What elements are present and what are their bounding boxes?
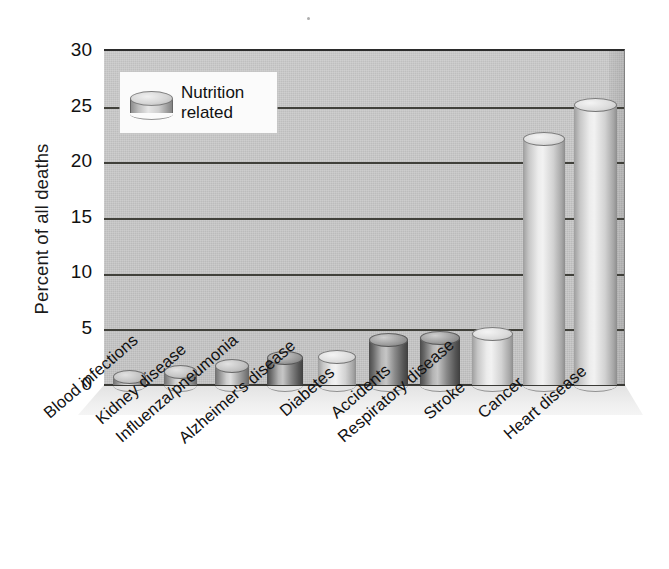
x-label-alzheimer-s-disease: Alzheimer's disease — [175, 336, 299, 448]
x-label-stroke: Stroke — [420, 377, 469, 423]
chart-figure: Percent of all deaths 30 25 20 15 10 5 0… — [0, 0, 669, 569]
x-label-diabetes: Diabetes — [276, 363, 338, 421]
x-axis-tick-labels: Blood infectionsKidney diseaseInfluenza/… — [0, 0, 669, 569]
